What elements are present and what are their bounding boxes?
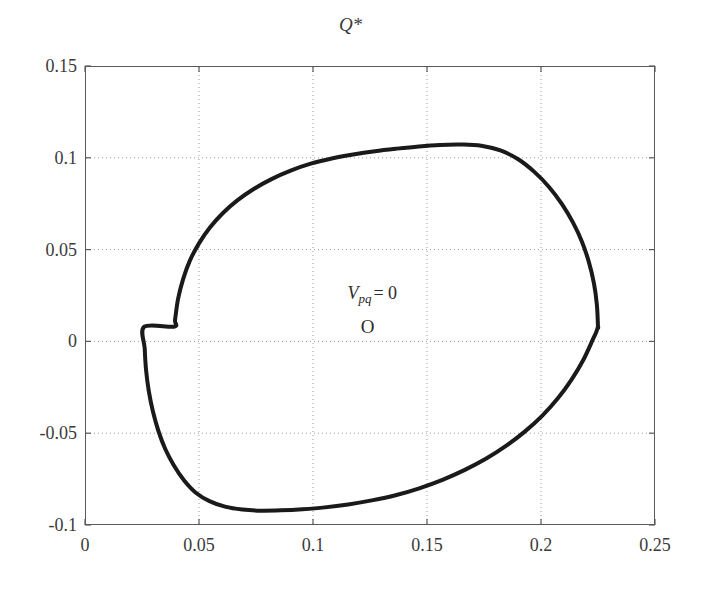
x-tick-label: 0.2: [530, 535, 553, 556]
y-axis-title: Q*: [0, 14, 701, 36]
annotation-vpq-equals-zero: Vpq= 0: [347, 282, 397, 307]
annotation-vpq-symbol: V: [347, 282, 358, 302]
y-tick-label: 0.1: [0, 147, 77, 168]
x-tick-label: 0: [81, 535, 90, 556]
x-tick-label: 0.05: [183, 535, 215, 556]
y-tick-label: 0.15: [0, 56, 77, 77]
annotation-origin-label: O: [361, 316, 375, 338]
y-tick-label: -0.1: [0, 515, 77, 536]
figure-container: Q* 0.150.10.050-0.05-0.1 00.050.10.150.2…: [0, 0, 701, 615]
x-tick-label: 0.1: [302, 535, 325, 556]
x-tick-label: 0.25: [639, 535, 671, 556]
annotation-vpq-subscript: pq: [358, 291, 371, 306]
y-axis-title-text: Q*: [339, 14, 362, 35]
y-tick-label: 0.05: [0, 239, 77, 260]
y-tick-label: 0: [0, 331, 77, 352]
x-tick-label: 0.15: [411, 535, 443, 556]
annotation-vpq-equals: = 0: [373, 282, 397, 302]
y-tick-label: -0.05: [0, 423, 77, 444]
